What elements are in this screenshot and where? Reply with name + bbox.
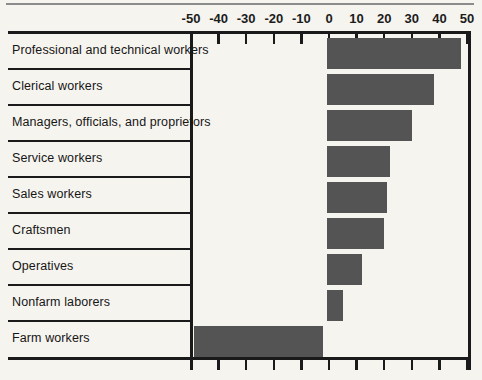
x-tick-label: 50 (460, 11, 474, 26)
bar-professional-and-technical-workers (327, 38, 462, 69)
row-separator (8, 176, 191, 179)
x-tick-mark-bottom (328, 357, 331, 370)
category-label: Craftsmen (12, 223, 71, 237)
category-label: Clerical workers (12, 79, 103, 93)
x-tick-label: -50 (182, 11, 201, 26)
row-separator (8, 284, 191, 287)
x-tick-label: 40 (432, 11, 446, 26)
row-separator (8, 212, 191, 215)
x-tick-mark-bottom (411, 357, 414, 370)
x-tick-mark-bottom (355, 357, 358, 370)
top-rule-divider (6, 3, 474, 5)
bar-managers-officials-and-proprietors (327, 110, 412, 141)
x-axis-line-bottom (8, 357, 471, 360)
x-tick-mark-bottom (300, 357, 303, 370)
x-tick-mark-bottom (383, 357, 386, 370)
bar-operatives (327, 254, 363, 285)
x-tick-mark-top (300, 31, 303, 44)
x-tick-label: -30 (237, 11, 256, 26)
x-tick-label: 20 (377, 11, 391, 26)
bar-clerical-workers (327, 74, 434, 105)
x-tick-mark-top (245, 31, 248, 44)
x-tick-label: -10 (292, 11, 311, 26)
x-tick-label: 30 (405, 11, 419, 26)
x-tick-label: -20 (264, 11, 283, 26)
x-tick-mark-bottom (273, 357, 276, 370)
row-separator (8, 248, 191, 251)
x-tick-mark-top (273, 31, 276, 44)
row-separator (8, 320, 191, 323)
x-tick-label: -40 (209, 11, 228, 26)
plot-frame-right (468, 31, 471, 370)
employment-change-bar-chart: -50-40-30-20-1001020304050Professional a… (0, 0, 482, 380)
bar-craftsmen (327, 218, 385, 249)
x-tick-label: 0 (325, 11, 332, 26)
category-label: Managers, officials, and proprietors (12, 115, 211, 129)
bar-service-workers (327, 146, 390, 177)
bar-nonfarm-laborers (327, 290, 343, 321)
category-label: Service workers (12, 151, 102, 165)
x-tick-mark-bottom (217, 357, 220, 370)
category-label: Farm workers (12, 331, 90, 345)
x-tick-mark-bottom (245, 357, 248, 370)
x-axis-line-top (8, 31, 471, 34)
x-tick-label: 10 (349, 11, 363, 26)
category-label: Professional and technical workers (12, 43, 209, 57)
x-tick-mark-top (217, 31, 220, 44)
row-separator (8, 104, 191, 107)
category-label: Nonfarm laborers (12, 295, 110, 309)
category-label: Operatives (12, 259, 73, 273)
row-separator (8, 140, 191, 143)
bar-sales-workers (327, 182, 387, 213)
bar-farm-workers (194, 326, 324, 357)
x-tick-mark-bottom (438, 357, 441, 370)
row-separator (8, 68, 191, 71)
category-label: Sales workers (12, 187, 92, 201)
